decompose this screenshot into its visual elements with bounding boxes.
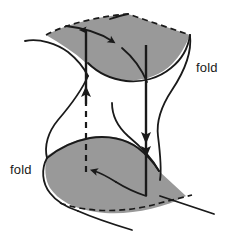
lower-sheet	[43, 136, 214, 230]
fold-diagram: fold fold	[0, 0, 237, 246]
lower-sheet-bottom-extension	[78, 211, 132, 230]
fold-label-upper-right: fold	[196, 60, 218, 75]
lower-sheet-fill	[45, 136, 186, 213]
lower-sheet-right-extension	[160, 196, 214, 214]
upper-sheet	[25, 14, 190, 82]
fold-label-lower-left: fold	[10, 162, 32, 177]
fold-surface-svg: fold fold	[0, 0, 237, 246]
